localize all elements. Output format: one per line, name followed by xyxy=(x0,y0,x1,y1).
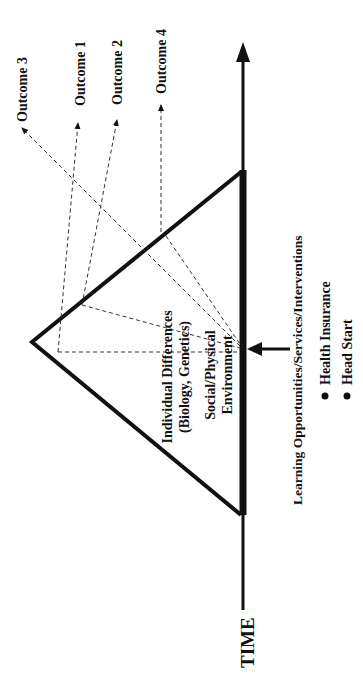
bullet-health-insurance: Health Insurance xyxy=(318,281,333,385)
individual-differences-label: Individual Differences xyxy=(160,310,175,444)
intervention-title: Learning Opportunities/Services/Interven… xyxy=(290,235,305,505)
outcome-3-label: Outcome 3 xyxy=(15,57,30,122)
arrow-left-icon xyxy=(247,342,262,356)
bullet-icon xyxy=(322,393,329,400)
life-course-diagram: Outcome 3 Outcome 1 Outcome 2 Outcome 4 … xyxy=(0,0,363,675)
outcome-paths xyxy=(22,105,240,352)
time-label: TIME xyxy=(237,617,258,668)
biology-genetics-label: (Biology, Genetics) xyxy=(177,321,193,433)
intervention-arrow xyxy=(247,342,290,356)
outcome-2-label: Outcome 2 xyxy=(110,40,125,105)
time-axis xyxy=(236,42,250,610)
outcome-1-label: Outcome 1 xyxy=(73,41,88,106)
arrow-up-icon xyxy=(236,42,250,62)
outcome-4-label: Outcome 4 xyxy=(154,29,169,94)
bullet-head-start: Head Start xyxy=(340,319,355,385)
environment-label: Environment xyxy=(220,335,235,414)
social-physical-label: Social/Physical xyxy=(203,330,218,420)
bullet-icon xyxy=(344,393,351,400)
